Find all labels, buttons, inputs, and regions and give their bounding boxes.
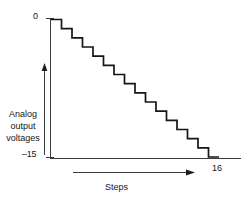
- arrow-right-icon: [186, 169, 195, 175]
- y-axis-title-line-1: Analog: [2, 108, 44, 120]
- staircase-figure: 0 –15 16 Steps Analog output voltages: [0, 0, 247, 204]
- x-axis-title: Steps: [105, 182, 128, 193]
- x-axis-tick-label-sixteen: 16: [212, 163, 222, 174]
- staircase-waveform: [51, 20, 219, 158]
- y-axis-tick-label-zero: 0: [33, 11, 38, 22]
- y-axis-title-line-2: output: [2, 120, 44, 132]
- y-axis-tick-label-minus15: –15: [22, 149, 36, 160]
- arrow-up-icon: [42, 63, 48, 71]
- y-axis-title: Analog output voltages: [2, 108, 44, 144]
- y-axis-title-line-3: voltages: [2, 132, 44, 144]
- plot-canvas: [0, 0, 247, 204]
